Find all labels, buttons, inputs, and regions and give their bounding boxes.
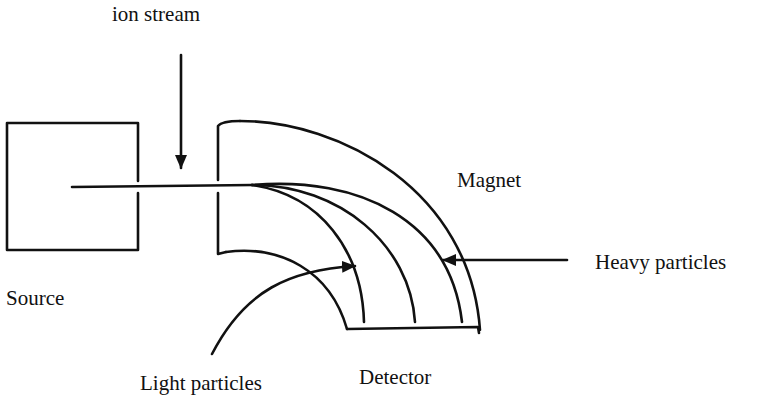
ion-beam-line (72, 185, 252, 187)
trajectory-heavy (252, 184, 462, 322)
magnet-left-wall-lower (218, 193, 226, 254)
light-particles-arrow (212, 266, 355, 354)
detector-plate (347, 327, 479, 333)
source-label: Source (6, 288, 64, 309)
light-particles-label: Light particles (140, 373, 262, 394)
trajectory-medium (252, 185, 415, 322)
magnet-label: Magnet (457, 170, 521, 191)
ion-stream-label: ion stream (112, 4, 200, 25)
heavy-particles-label: Heavy particles (595, 252, 726, 273)
mass-spectrometer-diagram (0, 0, 769, 407)
magnet-outer-arc (240, 121, 480, 330)
magnet-left-wall-upper (218, 121, 240, 180)
magnet-inner-arc (226, 251, 347, 329)
detector-label: Detector (359, 367, 431, 388)
